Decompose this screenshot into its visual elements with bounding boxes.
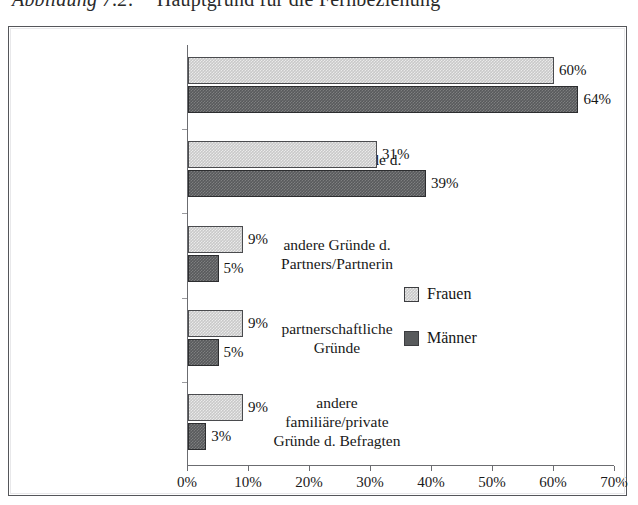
x-axis-tick-label: 10% — [218, 474, 278, 491]
legend-swatch-icon-frauen — [404, 287, 419, 302]
legend-item-maenner: Männer — [404, 329, 477, 347]
bar-group: anderefamiliäre/privateGründe d. Befragt… — [187, 45, 614, 466]
x-axis-tick — [370, 466, 371, 471]
legend-swatch-icon-maenner — [404, 331, 419, 346]
x-axis-tick — [431, 466, 432, 471]
x-axis-tick — [614, 466, 615, 471]
category-label-line: andere — [252, 393, 422, 412]
legend-label-frauen: Frauen — [427, 285, 471, 303]
bar-value-label: 9% — [248, 394, 268, 421]
bar-frauen — [188, 394, 243, 421]
legend-label-maenner: Männer — [427, 329, 477, 347]
category-label-line: familiäre/private — [252, 412, 422, 431]
x-axis-tick-label: 60% — [523, 474, 583, 491]
bar-value-label: 3% — [211, 423, 231, 450]
figure-frame: 0%10%20%30%40%50%60%70% eigene beruflich… — [8, 26, 627, 496]
x-axis-tick — [309, 466, 310, 471]
figure-caption-text: Hauptgrund für die Fernbeziehung — [157, 0, 441, 10]
chart-plot-area: 0%10%20%30%40%50%60%70% eigene beruflich… — [187, 45, 614, 466]
legend-item-frauen: Frauen — [404, 285, 477, 303]
x-axis-tick — [248, 466, 249, 471]
x-axis-tick — [553, 466, 554, 471]
x-axis-tick-label: 30% — [340, 474, 400, 491]
chart-legend: Frauen Männer — [404, 285, 477, 373]
category-label-line: Gründe d. Befragten — [252, 431, 422, 450]
x-axis-tick — [187, 466, 188, 471]
x-axis-tick-label: 0% — [157, 474, 217, 491]
figure-caption-area: Abbildung 7.2:Hauptgrund für die Fernbez… — [0, 0, 638, 26]
x-axis-tick-label: 40% — [401, 474, 461, 491]
x-axis-tick-label: 70% — [584, 474, 638, 491]
figure-caption-number: Abbildung 7.2: — [12, 0, 135, 10]
x-axis-tick — [492, 466, 493, 471]
figure-caption: Abbildung 7.2:Hauptgrund für die Fernbez… — [12, 0, 440, 11]
bar-maenner — [188, 423, 206, 450]
x-axis-tick-label: 20% — [279, 474, 339, 491]
x-axis-tick-label: 50% — [462, 474, 522, 491]
